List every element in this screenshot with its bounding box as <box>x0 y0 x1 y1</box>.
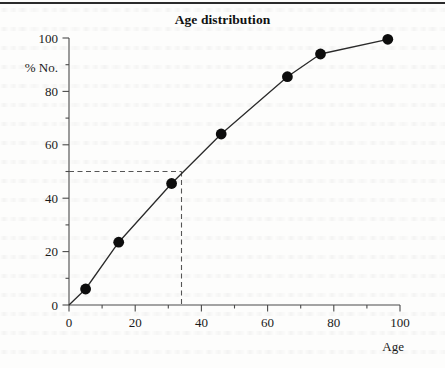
data-point-age-46 <box>216 129 227 140</box>
data-point-age-31 <box>166 178 177 189</box>
data-point-age-76 <box>315 49 326 60</box>
cumulative-distribution-line <box>69 39 388 305</box>
chart-page: Age distribution 0 20 40 60 80 <box>0 0 445 368</box>
x-tick-label-80: 80 <box>327 315 340 330</box>
data-point-age-15 <box>113 237 124 248</box>
y-tick-label-60: 60 <box>45 137 58 152</box>
x-tick-label-100: 100 <box>390 315 410 330</box>
y-tick-label-0: 0 <box>52 298 59 313</box>
y-tick-label-100: 100 <box>39 31 59 46</box>
x-axis-tick-labels: 0 20 40 60 80 100 <box>66 315 410 330</box>
data-point-markers <box>80 34 393 295</box>
x-axis-title: Age <box>382 339 404 354</box>
age-distribution-chart: 0 20 40 60 80 100 % No. 0 20 40 <box>0 0 445 368</box>
y-axis-ticks <box>63 38 70 305</box>
x-tick-label-20: 20 <box>129 315 142 330</box>
y-tick-label-20: 20 <box>45 244 58 259</box>
y-tick-label-80: 80 <box>45 84 58 99</box>
x-tick-label-60: 60 <box>261 315 274 330</box>
data-point-age-96 <box>382 34 393 45</box>
axes <box>69 38 400 305</box>
x-tick-label-0: 0 <box>66 315 73 330</box>
x-axis-ticks <box>69 305 400 312</box>
data-point-age-5 <box>80 284 91 295</box>
data-point-age-66 <box>282 71 293 82</box>
x-tick-label-40: 40 <box>195 315 208 330</box>
y-axis-title: % No. <box>25 60 58 75</box>
y-tick-label-40: 40 <box>45 191 58 206</box>
